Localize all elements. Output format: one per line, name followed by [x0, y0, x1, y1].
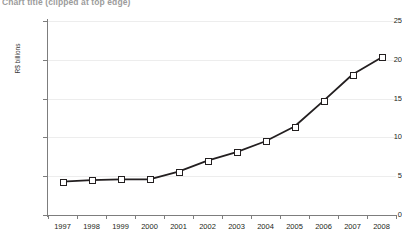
data-point-marker — [205, 158, 212, 165]
data-point-marker — [321, 98, 328, 105]
data-point-marker — [147, 176, 154, 183]
chart-figure: Chart title (clipped at top edge) R$ bil… — [0, 0, 402, 240]
data-point-marker — [263, 138, 270, 145]
data-point-marker — [176, 169, 183, 176]
data-point-marker — [379, 54, 386, 61]
data-point-marker — [118, 176, 125, 183]
data-point-marker — [60, 179, 67, 186]
data-point-marker — [292, 124, 299, 131]
data-point-marker — [350, 72, 357, 79]
series-line — [0, 0, 402, 240]
data-point-marker — [234, 149, 241, 156]
data-point-marker — [89, 177, 96, 184]
